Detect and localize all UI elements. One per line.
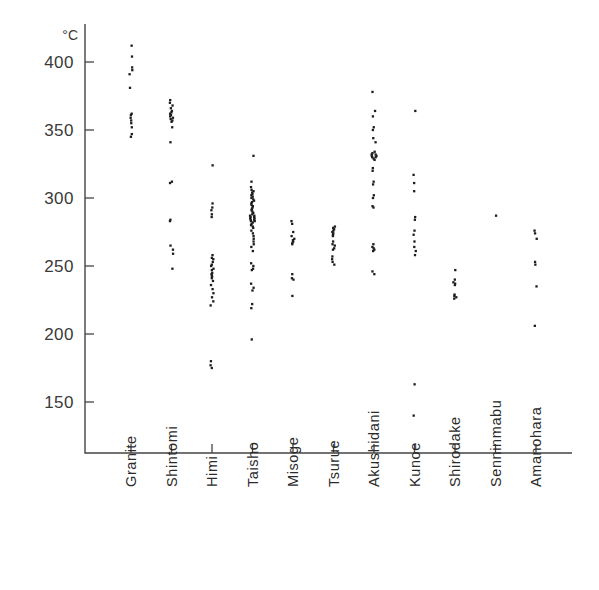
data-point [372, 206, 374, 208]
data-point [250, 262, 252, 264]
data-point [252, 240, 254, 242]
y-tick-label: 350 [44, 121, 74, 140]
data-point [169, 220, 171, 222]
data-point [212, 292, 214, 294]
data-point [454, 284, 456, 286]
data-point [253, 238, 255, 240]
data-point [374, 141, 376, 143]
data-point [131, 55, 133, 57]
data-point [211, 277, 213, 279]
data-point [169, 102, 171, 104]
x-category-label: Akushidani [366, 410, 382, 487]
data-point [413, 383, 415, 385]
category-labels-group: GraniteShintomiHimiTaishoMisogeTsurueAku… [123, 400, 544, 487]
data-point [372, 129, 374, 131]
data-point [372, 167, 374, 169]
data-point [211, 202, 213, 204]
data-point [131, 69, 133, 71]
data-point [331, 255, 333, 257]
y-tick-label: 400 [44, 53, 74, 72]
data-point [130, 122, 132, 124]
x-category-label: Shintomi [164, 426, 180, 487]
data-point [291, 295, 293, 297]
data-point [211, 254, 213, 256]
data-point [251, 303, 253, 305]
data-point [534, 263, 536, 265]
data-point [250, 181, 252, 183]
data-point [375, 156, 377, 158]
y-tick-label: 200 [44, 325, 74, 344]
data-point [130, 119, 132, 121]
data-point [291, 273, 293, 275]
data-point [252, 232, 254, 234]
data-point [169, 99, 171, 101]
data-point [130, 45, 132, 47]
data-point [211, 367, 213, 369]
data-point [413, 240, 415, 242]
data-point [169, 141, 171, 143]
data-point [372, 250, 374, 252]
data-point [412, 174, 414, 176]
data-point [170, 121, 172, 123]
data-point [128, 73, 130, 75]
data-point [210, 360, 212, 362]
data-point [332, 235, 334, 237]
data-point [413, 246, 415, 248]
data-point [292, 278, 294, 280]
data-point [250, 307, 252, 309]
data-point [210, 209, 212, 211]
data-point [250, 229, 252, 231]
x-category-label: Kunoe [407, 442, 423, 487]
x-category-label: Tsurue [326, 440, 342, 487]
data-point [129, 87, 131, 89]
data-point [533, 229, 535, 231]
data-point [331, 261, 333, 263]
data-point [171, 126, 173, 128]
data-point [454, 269, 456, 271]
data-point [332, 249, 334, 251]
data-point [373, 273, 375, 275]
data-point [415, 250, 417, 252]
data-point [290, 235, 292, 237]
data-point [535, 285, 537, 287]
data-point [371, 270, 373, 272]
data-point [372, 243, 374, 245]
data-point [253, 243, 255, 245]
data-point [251, 289, 253, 291]
data-point [372, 197, 374, 199]
data-point [333, 263, 335, 265]
data-point [454, 278, 456, 280]
data-point [371, 91, 373, 93]
data-point [291, 223, 293, 225]
data-point [414, 219, 416, 221]
x-category-label: Amanohara [528, 406, 544, 487]
data-point [495, 215, 497, 217]
x-category-label: Misoge [285, 437, 301, 487]
data-points-group [128, 45, 537, 417]
data-point [252, 250, 254, 252]
data-point [534, 325, 536, 327]
data-point [210, 265, 212, 267]
data-point [169, 182, 171, 184]
data-point [332, 240, 334, 242]
y-axis-ticks: 150200250300350400 [44, 53, 94, 412]
data-point [373, 159, 375, 161]
axis-lines [85, 24, 572, 453]
data-point [250, 186, 252, 188]
data-point [251, 213, 253, 215]
x-category-label: Senninmabu [488, 400, 504, 487]
data-point [250, 189, 252, 191]
data-point [412, 234, 414, 236]
y-tick-label: 250 [44, 257, 74, 276]
data-point [211, 206, 213, 208]
temperature-strip-plot: 150200250300350400 °C GraniteShintomiHim… [0, 0, 599, 590]
data-point [251, 338, 253, 340]
data-point [453, 297, 455, 299]
data-point [251, 269, 253, 271]
data-point [210, 284, 212, 286]
data-point [172, 117, 174, 119]
data-point [211, 164, 213, 166]
data-point [372, 137, 374, 139]
data-point [211, 213, 213, 215]
data-point [250, 283, 252, 285]
